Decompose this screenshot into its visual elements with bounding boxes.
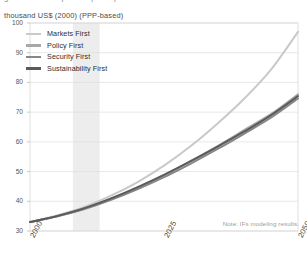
legend-item: Security First <box>26 51 146 63</box>
series-line <box>30 98 298 222</box>
y-tick-label: 90 <box>5 49 23 56</box>
series-line <box>30 96 298 222</box>
legend-label-sustainability-first: Sustainability First <box>47 64 107 73</box>
chart-figure: gross domestic product per capita thousa… <box>0 0 307 262</box>
legend-item: Markets First <box>26 28 146 40</box>
series-line <box>30 94 298 222</box>
legend-item: Sustainability First <box>26 63 146 75</box>
legend-swatch-sustainability-first <box>26 67 41 69</box>
legend-swatch-policy-first <box>26 44 41 46</box>
legend-item: Policy First <box>26 40 146 52</box>
chart-legend: Markets First Policy First Security Firs… <box>26 28 146 74</box>
y-tick-label: 50 <box>5 168 23 175</box>
legend-swatch-markets-first <box>26 33 41 35</box>
legend-label-security-first: Security First <box>47 52 90 61</box>
legend-label-markets-first: Markets First <box>47 29 90 38</box>
y-tick-label: 100 <box>5 19 23 26</box>
y-tick-label: 70 <box>5 108 23 115</box>
source-note: Note: IFs modeling results. <box>223 220 299 227</box>
legend-label-policy-first: Policy First <box>47 41 83 50</box>
y-tick-label: 60 <box>5 138 23 145</box>
legend-swatch-security-first <box>26 56 41 58</box>
y-tick-label: 40 <box>5 197 23 204</box>
y-tick-label: 80 <box>5 78 23 85</box>
y-tick-label: 30 <box>5 227 23 234</box>
